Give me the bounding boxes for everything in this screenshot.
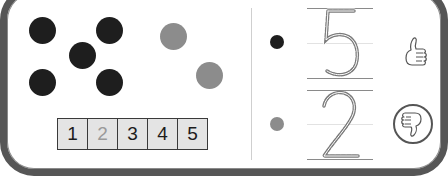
digit-five-outline [318, 8, 362, 80]
traced-digit-5 [307, 8, 373, 80]
grey-dot-indicator [270, 117, 284, 131]
dark-dot [69, 42, 96, 69]
number-cell-3[interactable]: 3 [118, 119, 148, 149]
thumbs-up-icon [402, 36, 428, 70]
dark-dot [96, 17, 123, 44]
thumbs-up-button[interactable] [402, 36, 428, 74]
grey-dot [196, 62, 223, 89]
traced-digit-2 [307, 90, 373, 160]
digit-two-outline [318, 90, 362, 160]
number-strip: 1 2 3 4 5 [57, 118, 208, 150]
number-cell-5[interactable]: 5 [178, 119, 207, 149]
dark-dot [96, 69, 123, 96]
number-cell-1[interactable]: 1 [58, 119, 88, 149]
dark-dot-indicator [270, 35, 284, 49]
section-divider [251, 8, 252, 160]
dark-dot [29, 17, 56, 44]
thumbs-down-circled-icon [392, 103, 434, 145]
thumbs-down-button[interactable] [392, 103, 434, 149]
dark-dot [29, 69, 56, 96]
number-cell-4[interactable]: 4 [148, 119, 178, 149]
grey-dot [160, 23, 187, 50]
number-cell-2[interactable]: 2 [88, 119, 118, 149]
